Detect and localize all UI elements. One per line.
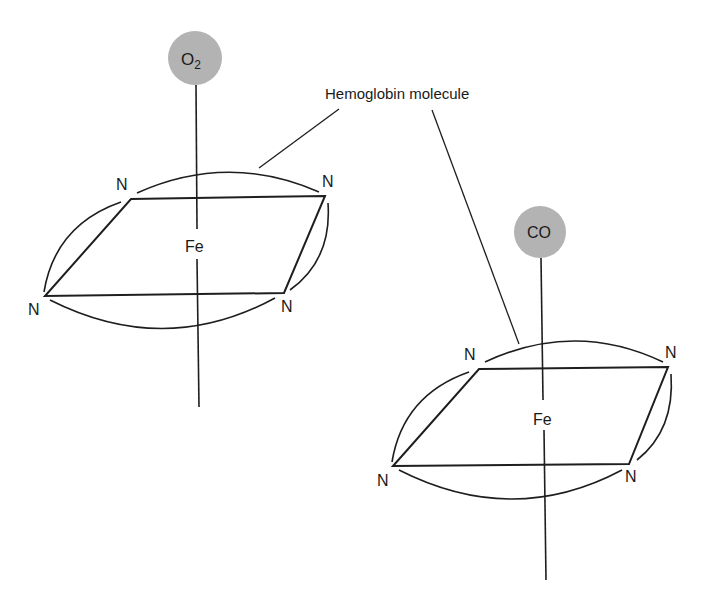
- molecule-oxygen: O2 Fe N N N N: [28, 31, 334, 407]
- axis-line-lower: [197, 259, 199, 407]
- n-label: N: [322, 173, 334, 190]
- n-label: N: [464, 346, 476, 363]
- arc-left: [44, 202, 121, 292]
- molecule-carbon-monoxide: CO Fe N N N N: [377, 206, 677, 580]
- fe-label: Fe: [185, 238, 204, 255]
- n-label: N: [625, 468, 637, 485]
- porphyrin-plane: [393, 367, 668, 466]
- co-ligand-label: CO: [527, 224, 551, 241]
- leader-line-right: [432, 110, 519, 344]
- n-label: N: [281, 298, 293, 315]
- axis-line-upper: [541, 258, 543, 400]
- axis-line-lower: [544, 430, 546, 580]
- leader-line-left: [259, 109, 339, 168]
- n-label: N: [377, 472, 389, 489]
- arc-bottom: [399, 470, 622, 499]
- n-label: N: [665, 344, 677, 361]
- arc-top: [485, 341, 663, 362]
- arc-right: [290, 203, 328, 290]
- arc-right: [637, 374, 671, 460]
- arc-bottom: [50, 298, 275, 329]
- n-label: N: [28, 301, 40, 318]
- fe-label: Fe: [533, 411, 552, 428]
- arc-left: [392, 372, 469, 462]
- axis-line-upper: [196, 85, 197, 229]
- callout-label: Hemoglobin molecule: [325, 85, 469, 102]
- arc-top: [137, 172, 319, 193]
- hemoglobin-diagram: Hemoglobin molecule O2 Fe N N N N CO: [0, 0, 707, 612]
- n-label: N: [116, 176, 128, 193]
